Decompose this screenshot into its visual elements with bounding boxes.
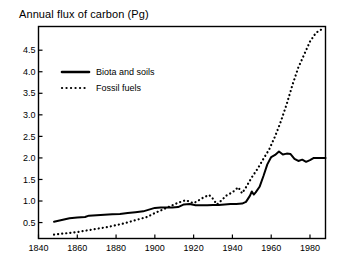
x-tick-label: 1880 (106, 243, 126, 253)
y-tick-label: 2.5 (23, 132, 36, 142)
x-tick-label: 1960 (261, 243, 281, 253)
y-tick-label: 0.5 (23, 218, 36, 228)
y-tick-label: 4.5 (23, 45, 36, 55)
y-tick-label: 3.5 (23, 88, 36, 98)
x-tick-label: 1980 (300, 243, 320, 253)
x-tick-label: 1920 (184, 243, 204, 253)
x-tick-label: 1860 (67, 243, 87, 253)
y-tick-label: 4.0 (23, 67, 36, 77)
y-tick-label: 2.0 (23, 153, 36, 163)
legend-item-label: Fossil fuels (96, 83, 142, 93)
x-tick-label: 1840 (28, 243, 48, 253)
x-tick-label: 1900 (145, 243, 165, 253)
carbon-flux-chart: 0.51.01.52.02.53.03.54.04.5 184018601880… (0, 0, 341, 273)
y-tick-label: 1.0 (23, 196, 36, 206)
chart-page: Annual flux of carbon (Pg) 0.51.01.52.02… (0, 0, 341, 273)
y-tick-label: 3.0 (23, 110, 36, 120)
y-tick-label: 1.5 (23, 175, 36, 185)
x-tick-label: 1940 (222, 243, 242, 253)
plot-border (39, 27, 326, 239)
plot-frame (39, 27, 326, 239)
legend-item-label: Biota and soils (96, 67, 155, 77)
